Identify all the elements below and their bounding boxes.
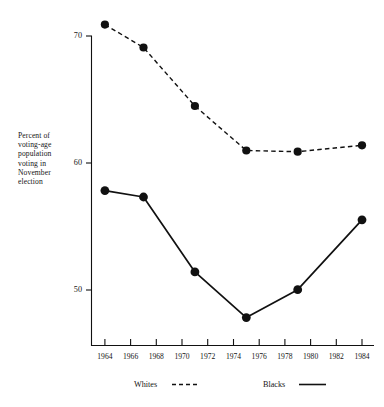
x-tick-label-1980: 1980	[298, 353, 324, 361]
x-tick-label-1972: 1972	[195, 353, 221, 361]
y-tick-label-60: 60	[62, 159, 82, 167]
y-axis-caption-line-5: November	[18, 168, 80, 177]
x-tick-label-1978: 1978	[272, 353, 298, 361]
data-point-blacks-1967	[139, 193, 148, 202]
series-markers-blacks	[101, 186, 367, 322]
x-tick-label-1982: 1982	[323, 353, 349, 361]
legend-label-whites: Whites	[134, 381, 157, 389]
x-tick-label-1968: 1968	[143, 353, 169, 361]
plot-area	[0, 0, 384, 407]
data-point-whites-1971	[191, 102, 199, 110]
y-axis-caption-line-1: Percent of	[18, 131, 80, 140]
data-point-blacks-1971	[191, 268, 200, 277]
data-point-blacks-1964	[101, 186, 110, 195]
x-tick-label-1974: 1974	[221, 353, 247, 361]
data-point-blacks-1984	[358, 215, 367, 224]
legend-label-blacks: Blacks	[263, 381, 285, 389]
x-tick-label-1984: 1984	[349, 353, 375, 361]
x-tick-label-1964: 1964	[92, 353, 118, 361]
data-point-whites-1975	[242, 146, 250, 154]
y-tick-label-70: 70	[62, 32, 82, 40]
data-point-blacks-1979	[293, 285, 302, 294]
data-point-whites-1979	[294, 148, 302, 156]
y-axis-caption-line-2: voting-age	[18, 140, 80, 149]
y-axis-caption-line-3: population	[18, 149, 80, 158]
series-markers-whites	[101, 21, 366, 156]
data-point-whites-1984	[358, 141, 366, 149]
x-tick-label-1970: 1970	[169, 353, 195, 361]
series-line-blacks	[105, 191, 362, 318]
x-tick-label-1966: 1966	[118, 353, 144, 361]
y-axis-caption-line-6: election	[18, 177, 80, 186]
y-tick-label-50: 50	[62, 286, 82, 294]
voter-turnout-line-chart: Percent of voting-age population voting …	[0, 0, 384, 407]
x-tick-label-1976: 1976	[246, 353, 272, 361]
data-point-whites-1967	[139, 43, 147, 51]
data-point-blacks-1975	[242, 313, 251, 322]
data-point-whites-1964	[101, 21, 109, 29]
